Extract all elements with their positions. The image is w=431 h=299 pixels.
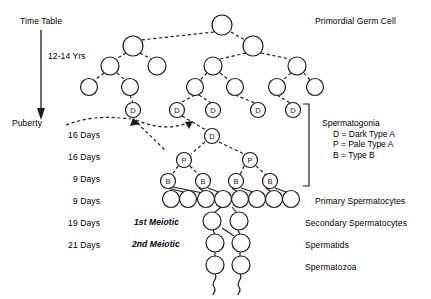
renewal-arrowhead-2 bbox=[185, 121, 193, 129]
cell-secondary-spermatocyte-row bbox=[203, 212, 248, 230]
puberty-label: Puberty bbox=[12, 118, 42, 128]
cell-label-b: B bbox=[200, 177, 205, 186]
cell-label-b: B bbox=[233, 177, 238, 186]
legend-type-b: B = Type B bbox=[322, 150, 395, 161]
second-meiotic-label: 2nd Meiotic bbox=[132, 239, 180, 249]
cell-primary-spermatocyte-row bbox=[163, 191, 300, 208]
spermatozoa-tails bbox=[213, 274, 241, 295]
spermatozoa-label: Spermatozoa bbox=[305, 262, 357, 272]
cell-generation-2 bbox=[123, 36, 263, 56]
cell-label-p: P bbox=[247, 156, 252, 165]
cell-label-d: D bbox=[174, 106, 180, 115]
time-table-title: Time Table bbox=[20, 16, 62, 26]
cell-label-d: D bbox=[255, 106, 261, 115]
stage-duration-4: 9 Days bbox=[0, 196, 100, 206]
primordial-germ-cell-label: Primordial Germ Cell bbox=[315, 16, 396, 26]
spermatids-label: Spermatids bbox=[305, 240, 349, 250]
stage-duration-2: 16 Days bbox=[0, 152, 100, 162]
cell-generation-4 bbox=[81, 79, 324, 96]
cell-spermatid-row bbox=[206, 234, 250, 252]
cell-label-d: D bbox=[290, 106, 296, 115]
spermatogonia-label: Spermatogonia bbox=[322, 118, 395, 129]
primary-spermatocytes-label: Primary Spermatocytes bbox=[315, 196, 405, 206]
cell-generation-3 bbox=[101, 57, 306, 75]
timeline-arrow bbox=[37, 30, 45, 120]
stage-duration-1: 16 Days bbox=[0, 130, 100, 140]
cell-type-b-row: B B B B bbox=[161, 174, 278, 189]
legend-dark-type-a: D = Dark Type A bbox=[322, 129, 395, 140]
cell-dark-type-a-row: D D D D D bbox=[126, 103, 301, 118]
cell-pale-type-a-row: P P bbox=[177, 153, 258, 168]
cell-label-p: P bbox=[181, 156, 186, 165]
duration-label: 12-14 Yrs bbox=[48, 51, 86, 61]
spermatogonia-legend: Spermatogonia D = Dark Type A P = Pale T… bbox=[322, 118, 395, 160]
spermatogonia-bracket bbox=[303, 104, 309, 186]
cell-label-d: D bbox=[210, 106, 216, 115]
cell-label-d: D bbox=[130, 106, 136, 115]
cell-label-b: B bbox=[267, 177, 272, 186]
stage-duration-5: 19 Days bbox=[0, 218, 100, 228]
stage-duration-3: 9 Days bbox=[0, 174, 100, 184]
legend-pale-type-a: P = Pale Type A bbox=[322, 139, 395, 150]
cell-dark-type-a-second: D bbox=[205, 129, 220, 144]
spermatogenesis-diagram: D D D D D D P P bbox=[0, 0, 431, 299]
cell-label-b: B bbox=[165, 177, 170, 186]
cell-label-d: D bbox=[209, 132, 215, 141]
cell-primordial-germ bbox=[212, 15, 232, 35]
cell-spermatozoa-row bbox=[206, 256, 250, 274]
secondary-spermatocytes-label: Secondary Spermatocytes bbox=[305, 218, 407, 228]
first-meiotic-label: 1st Meiotic bbox=[134, 217, 179, 227]
stage-duration-6: 21 Days bbox=[0, 240, 100, 250]
